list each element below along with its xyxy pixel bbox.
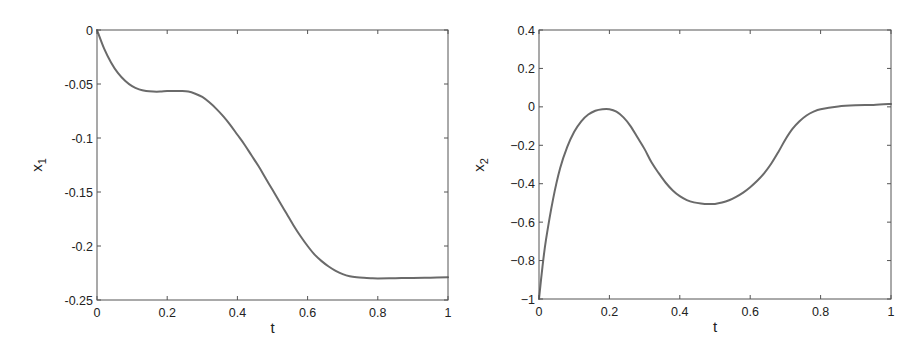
axes-frame [97,30,448,300]
x-axis-label: t [713,318,718,335]
y-tick-label: −0.4 [510,177,535,191]
series-line-x2 [539,104,891,299]
x-tick-label: 0.6 [742,305,759,319]
x-tick-label: 0.4 [229,306,246,320]
x-axis-label: t [270,319,275,336]
x-tick-label: 1 [445,306,452,320]
x-tick-label: 0 [94,306,101,320]
y-axis-label: x2 [470,158,490,172]
x-tick-label: 0.2 [159,306,176,320]
x-tick-label: 0.6 [299,306,316,320]
y-tick-label: 0 [528,100,535,114]
figure: 00.20.40.60.810-0.05-0.1-0.15-0.2-0.25tx… [0,0,917,352]
x-tick-label: 0.8 [812,305,829,319]
x-tick-label: 0.2 [601,305,618,319]
plot-x1-vs-t: 00.20.40.60.810-0.05-0.1-0.15-0.2-0.25tx… [28,24,452,337]
y-tick-label: 0.2 [518,62,535,76]
y-tick-label: −1 [521,293,535,307]
x-tick-label: 0.4 [671,305,688,319]
axes-frame [539,30,891,299]
y-tick-label: −0.6 [510,216,535,230]
x-tick-label: 0.8 [369,306,386,320]
y-tick-label: 0.4 [518,24,535,38]
x-tick-label: 1 [888,305,895,319]
y-tick-label: -0.25 [65,294,94,308]
y-tick-label: -0.1 [71,132,93,146]
y-tick-label: -0.05 [65,78,94,92]
y-tick-label: 0 [86,24,93,38]
y-tick-label: −0.8 [510,254,535,268]
y-tick-label: −0.2 [510,139,535,153]
series-line-x1 [97,30,448,278]
y-axis-label: x1 [28,158,48,172]
y-tick-label: -0.15 [65,186,94,200]
x-tick-label: 0 [536,305,543,319]
plot-x2-vs-t: 00.20.40.60.810.40.20−0.2−0.4−0.6−0.8−1t… [470,24,895,336]
y-tick-label: -0.2 [71,240,93,254]
